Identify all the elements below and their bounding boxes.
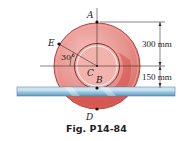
dimension-150: 150 mm xyxy=(142,72,172,82)
wheel-diagram: A E C B D 30° 300 mm 150 mm Fig. P14-84 xyxy=(0,0,191,141)
point-d-marker xyxy=(95,107,98,110)
point-e-marker xyxy=(57,42,60,45)
label-b: B xyxy=(95,75,103,85)
point-c-marker xyxy=(96,65,98,67)
dimension-300: 300 mm xyxy=(142,39,172,49)
label-a: A xyxy=(86,10,94,20)
label-d: D xyxy=(85,112,93,122)
point-b-marker xyxy=(95,86,98,89)
label-e: E xyxy=(47,38,55,48)
figure-caption: Fig. P14-84 xyxy=(66,123,127,134)
point-a-marker xyxy=(95,20,98,23)
angle-label: 30° xyxy=(61,53,75,62)
label-c: C xyxy=(87,68,94,78)
